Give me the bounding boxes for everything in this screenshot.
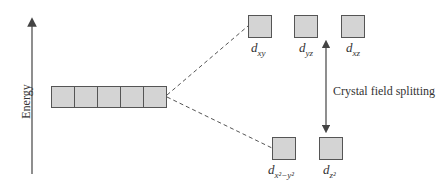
- orbital-box: [97, 86, 121, 108]
- dashed-line-lower: [167, 97, 272, 148]
- dashed-line-upper: [167, 26, 248, 95]
- orbital-box: [74, 86, 98, 108]
- orbital-box-dx2-y2: [272, 137, 296, 160]
- label-dx2-y2: dx²−y²: [268, 162, 294, 180]
- label-dxz: dxz: [346, 40, 360, 58]
- orbital-box-dyz: [294, 15, 318, 38]
- orbital-box: [120, 86, 144, 108]
- crystal-field-splitting-label: Crystal field splitting: [333, 84, 435, 99]
- label-dyz: dyz: [299, 40, 313, 58]
- orbital-box-dxz: [341, 15, 365, 38]
- energy-axis-label: Energy: [19, 72, 34, 132]
- orbital-box: [143, 86, 167, 108]
- label-dz2: dz²: [323, 162, 336, 180]
- orbital-box-dxy: [248, 15, 272, 38]
- orbital-box-dz2: [319, 137, 343, 160]
- label-dxy: dxy: [251, 40, 266, 58]
- orbital-box: [51, 86, 75, 108]
